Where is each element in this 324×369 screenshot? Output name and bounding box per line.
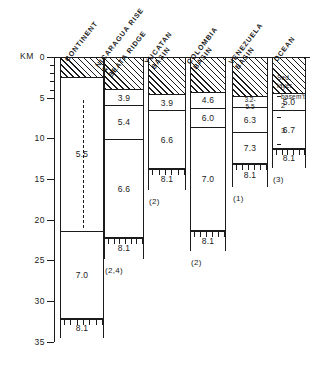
depth-axis-line (54, 57, 55, 342)
hachure-tick (276, 149, 277, 155)
column-colombia-basin: 4.66.07.08.1 (190, 57, 226, 251)
ocean-layer-2-tick (277, 117, 281, 118)
axis-unit-label: KM (20, 51, 34, 61)
hachure-tick (254, 164, 255, 170)
velocity-label: 7.0 (191, 174, 225, 184)
column-reference-note: (2) (149, 197, 160, 206)
hachure-tick (287, 149, 288, 155)
velocity-label: 6.3 (233, 115, 267, 125)
axis-tick-30 (47, 301, 54, 302)
hachure-tick (70, 319, 71, 325)
moho-line (233, 164, 267, 165)
hachure-tick (236, 164, 237, 170)
hachure-tick (159, 169, 160, 175)
sed-layer-annotation: Sed. layer (277, 74, 292, 89)
hachure-tick (108, 238, 109, 244)
velocity-label: 8.1 (149, 174, 185, 184)
axis-minor-tick (50, 90, 54, 91)
velocity-label: 8.1 (105, 243, 143, 253)
moho-line (105, 238, 143, 239)
axis-tick-label-20: 20 (20, 215, 45, 225)
velocity-label: 3.2- (233, 96, 267, 103)
axis-tick-15 (47, 179, 54, 180)
axis-tick-5 (47, 98, 54, 99)
hachure-tick (212, 231, 213, 237)
axis-minor-tick (50, 81, 54, 82)
column-reference-note: (2,4) (105, 266, 123, 275)
axis-tick-35 (47, 342, 54, 343)
velocity-label: 3.9 (105, 93, 143, 103)
hachure-tick (96, 319, 97, 325)
hachure-tick (89, 319, 90, 325)
axis-minor-tick (50, 65, 54, 66)
velocity-label: 8.1 (191, 236, 225, 246)
ocean-layer-2-label: 2 (281, 101, 285, 110)
hachure-tick (165, 169, 166, 175)
axis-tick-label-35: 35 (20, 337, 45, 347)
hachure-tick (152, 169, 153, 175)
column-reference-note: (1) (233, 194, 244, 203)
axis-tick-0 (47, 57, 54, 58)
moho-hachure (149, 169, 185, 175)
velocity-label: 5.4 (105, 117, 143, 127)
moho-hachure (61, 319, 103, 325)
hachure-tick (260, 164, 261, 170)
axis-minor-tick (50, 73, 54, 74)
axis-tick-25 (47, 260, 54, 261)
axis-tick-label-10: 10 (20, 133, 45, 143)
sed-layer-line1: Sed. (277, 74, 291, 81)
velocity-label: 6.6 (105, 184, 143, 194)
basement-leader-tick (277, 96, 281, 97)
hachure-tick (83, 319, 84, 325)
sed-layer-line2: layer (277, 82, 292, 89)
layer-sediment (191, 57, 225, 93)
moho-hachure (233, 164, 267, 170)
column-reference-note: (2) (191, 258, 202, 267)
layer-sediment (105, 57, 143, 90)
ocean-layer-3-tick (277, 144, 281, 145)
hachure-tick (184, 169, 185, 175)
hachure-tick (119, 238, 120, 244)
gradational-boundary-dashes (83, 100, 84, 228)
axis-tick-label-30: 30 (20, 296, 45, 306)
hachure-tick (293, 149, 294, 155)
ocean-layer-3-label: 3 (281, 126, 285, 135)
hachure-tick (142, 238, 143, 244)
layer-sediment (149, 57, 185, 95)
hachure-tick (218, 231, 219, 237)
layer-sediment (61, 57, 103, 78)
seismic-velocity-figure: KM 05101520253035 CONTINENTNICARAGUA RIS… (0, 0, 324, 369)
hachure-tick (64, 319, 65, 325)
column-reference-note: (3) (273, 175, 284, 184)
hachure-tick (114, 238, 115, 244)
hachure-tick (125, 238, 126, 244)
velocity-label: 7.0 (61, 270, 103, 280)
axis-tick-20 (47, 220, 54, 221)
moho-hachure (273, 149, 305, 155)
hachure-tick (266, 164, 267, 170)
moho-line (191, 231, 225, 232)
velocity-label: 6.6 (149, 135, 185, 145)
hachure-tick (102, 319, 103, 325)
hachure-tick (299, 149, 300, 155)
hachure-tick (224, 231, 225, 237)
hachure-tick (242, 164, 243, 170)
column-nicaragua-rise-beata-ridge: 3.95.46.68.1 (104, 57, 144, 259)
hachure-tick (178, 169, 179, 175)
column-yucatan-basin: 3.96.68.1 (148, 57, 186, 190)
velocity-label: 3.9 (149, 98, 185, 108)
velocity-label: 6.7 (273, 125, 305, 135)
moho-line (273, 149, 305, 150)
hachure-tick (136, 238, 137, 244)
moho-line (149, 169, 185, 170)
hachure-tick (194, 231, 195, 237)
axis-tick-label-5: 5 (20, 93, 45, 103)
hachure-tick (131, 238, 132, 244)
velocity-label: 8.1 (233, 170, 267, 180)
hachure-tick (206, 231, 207, 237)
axis-tick-label-0: 0 (33, 52, 45, 62)
layer-sediment (233, 57, 267, 97)
axis-tick-10 (47, 138, 54, 139)
hachure-tick (200, 231, 201, 237)
velocity-label: 6.0 (191, 113, 225, 123)
